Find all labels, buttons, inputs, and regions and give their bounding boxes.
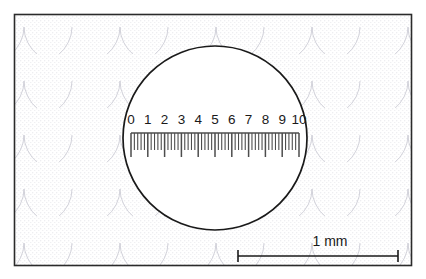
graticule-label: 6 bbox=[228, 112, 236, 127]
graticule-label: 8 bbox=[262, 112, 270, 127]
graticule-label: 9 bbox=[278, 112, 286, 127]
graticule-label: 4 bbox=[194, 112, 202, 127]
graticule-illustration: 012345678910 1 mm bbox=[0, 0, 426, 279]
graticule-label: 3 bbox=[178, 112, 186, 127]
graticule-label: 7 bbox=[245, 112, 253, 127]
graticule-label: 0 bbox=[127, 112, 135, 127]
scale-bar-label: 1 mm bbox=[313, 233, 348, 249]
graticule-label: 10 bbox=[291, 112, 306, 127]
graticule-label: 2 bbox=[161, 112, 169, 127]
figure-container: Microscope eyepiece graticule with calib… bbox=[0, 0, 426, 279]
graticule-label: 5 bbox=[211, 112, 219, 127]
graticule-label: 1 bbox=[144, 112, 152, 127]
